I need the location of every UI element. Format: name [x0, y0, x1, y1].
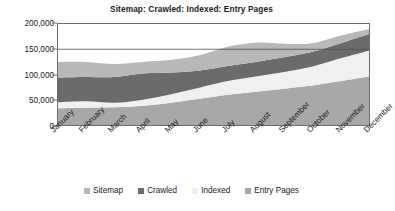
chart-title: Sitemap: Crawled: Indexed: Entry Pages — [0, 4, 383, 14]
chart-legend: SitemapCrawledIndexedEntry Pages — [0, 186, 383, 195]
legend-swatch-icon — [84, 188, 90, 194]
legend-item-crawled[interactable]: Crawled — [138, 186, 177, 195]
y-tick-label: 150,000 — [24, 44, 54, 53]
legend-swatch-icon — [192, 188, 198, 194]
legend-item-sitemap[interactable]: Sitemap — [84, 186, 123, 195]
legend-item-indexed[interactable]: Indexed — [192, 186, 230, 195]
legend-item-entry-pages[interactable]: Entry Pages — [245, 186, 299, 195]
y-axis: 050,000100,000150,000200,000 — [0, 23, 54, 126]
legend-label: Entry Pages — [254, 186, 299, 195]
y-tick-label: 100,000 — [24, 70, 54, 79]
legend-label: Sitemap — [93, 186, 123, 195]
x-axis: JanuaryFebruaryMarchAprilMayJuneJulyAugu… — [0, 126, 383, 184]
legend-label: Crawled — [147, 186, 177, 195]
y-tick-label: 200,000 — [24, 19, 54, 28]
legend-label: Indexed — [201, 186, 230, 195]
legend-swatch-icon — [245, 188, 251, 194]
y-tick-label: 50,000 — [29, 96, 54, 105]
legend-swatch-icon — [138, 188, 144, 194]
